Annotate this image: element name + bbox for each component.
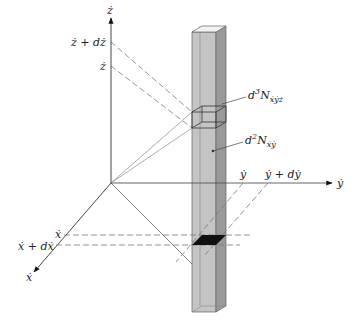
ray-base [111,183,192,264]
column-side-face [216,26,226,312]
ray-upper [111,112,192,183]
ray-lower [111,128,192,183]
column-point [212,150,215,153]
x-lower-label: ẋ [55,228,62,241]
y-lower-label: ẏ [239,168,247,181]
x-axis [34,183,111,272]
y-upper-label: ẏ + dẏ [264,168,301,181]
z-upper-label: ż + dż [70,36,106,49]
column-front-face [192,32,216,312]
z-upper-dash [111,42,192,112]
z-lower-label: ż [99,60,106,73]
d2n-label: d2Nẋẏ [245,132,276,149]
x-axis-label: ẋ [26,271,33,284]
z-axis-label: ż [106,4,113,17]
phase-space-diagram: ż ż + dż ż ẏ ẏ ẏ + dẏ ẋ ẋ ẋ + dẋ d3Nẋẏż … [0,0,362,321]
y-axis-label: ẏ [336,177,344,190]
z-lower-dash [111,66,192,128]
x-upper-label: ẋ + dẋ [18,240,54,253]
d3n-label: d3Nẋẏż [248,87,284,104]
